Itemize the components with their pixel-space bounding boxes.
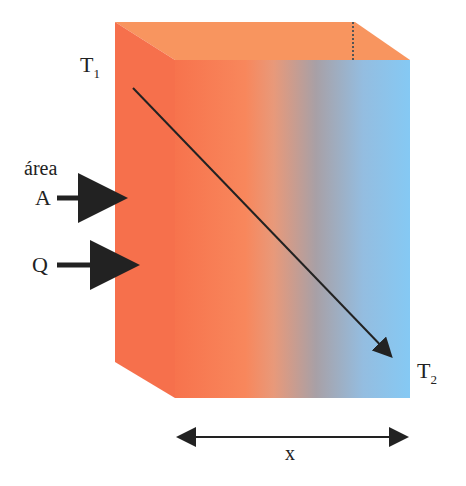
label-a: A — [35, 185, 51, 211]
label-q: Q — [32, 252, 48, 278]
label-t2: T2 — [417, 358, 437, 384]
slab-front-face — [175, 60, 410, 398]
label-t1: T1 — [80, 52, 100, 78]
label-x: x — [285, 442, 295, 465]
label-area: área — [24, 157, 57, 180]
slab-left-face — [115, 22, 175, 398]
slab-diagram — [0, 0, 466, 486]
